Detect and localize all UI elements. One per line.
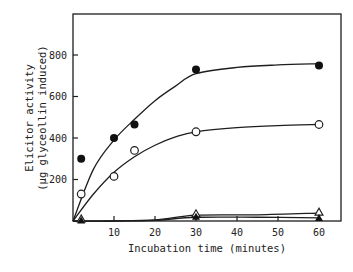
open-circle-point — [131, 147, 139, 155]
y-tick-label: 600 — [49, 91, 67, 102]
data-points — [77, 61, 323, 223]
x-axis-ticks: 102030405060 — [108, 216, 325, 238]
filled-circle-point — [77, 155, 85, 163]
open-circle-point — [77, 190, 85, 198]
x-tick-label: 20 — [149, 227, 161, 238]
x-tick-label: 30 — [190, 227, 202, 238]
y-axis-title-line1: Elicitor activity — [23, 64, 35, 171]
open-circle-point — [110, 173, 118, 181]
open-circle-point — [192, 128, 200, 136]
y-axis-title-line2: (µg glyceollin induced) — [36, 45, 48, 190]
x-axis-title: Incubation time (minutes) — [128, 242, 286, 254]
filled-circle-point — [110, 134, 118, 142]
curve-filled-circle — [73, 64, 319, 221]
curve-open-circle — [73, 125, 319, 221]
y-tick-label: 200 — [49, 174, 67, 185]
x-tick-label: 60 — [313, 227, 325, 238]
filled-circle-point — [192, 66, 200, 74]
fitted-curves — [73, 64, 319, 221]
x-tick-label: 10 — [108, 227, 120, 238]
open-circle-point — [315, 121, 323, 129]
x-tick-label: 50 — [272, 227, 284, 238]
filled-circle-point — [131, 121, 139, 129]
y-tick-label: 400 — [49, 133, 67, 144]
plot-frame — [73, 14, 341, 221]
x-tick-label: 40 — [231, 227, 243, 238]
plot-border — [73, 14, 341, 221]
chart: 200400600800 102030405060 Incubation tim… — [0, 0, 353, 272]
y-tick-label: 800 — [49, 50, 67, 61]
filled-circle-point — [315, 61, 323, 69]
